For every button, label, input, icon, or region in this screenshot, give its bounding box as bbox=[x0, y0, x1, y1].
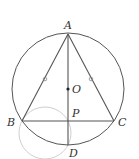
label-b: B bbox=[6, 116, 15, 129]
center-point-o bbox=[66, 87, 69, 90]
auxiliary-circle bbox=[19, 107, 71, 159]
label-o: O bbox=[72, 83, 81, 96]
label-d: D bbox=[68, 147, 78, 159]
geometry-figure: A O P B C D bbox=[0, 0, 139, 159]
label-c: C bbox=[118, 116, 127, 129]
label-a: A bbox=[63, 19, 72, 32]
label-p: P bbox=[71, 107, 80, 120]
